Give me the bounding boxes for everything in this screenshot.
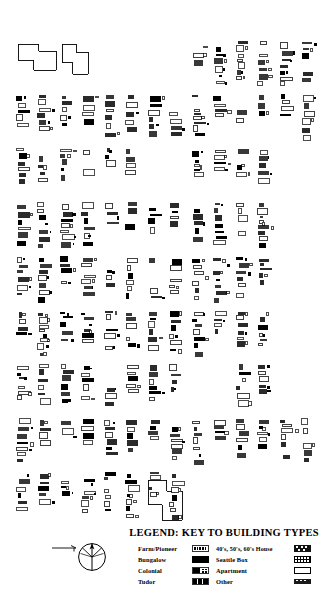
legend-item-40s50s60s-house-label: 40's, 50's, 60's House — [216, 545, 292, 553]
map-page: LEGEND: KEY TO BUILDING TYPES Farm/Pione… — [0, 0, 328, 605]
legend-swatch-apartment — [294, 567, 311, 574]
legend-item-other-label: Other — [216, 578, 292, 586]
north-arrow-compass-icon — [74, 540, 110, 578]
legend-swatch-tudor — [192, 578, 209, 585]
legend-item-colonial-label: Colonial — [138, 567, 190, 575]
legend-item-farm-pioneer-label: Farm/Pioneer — [138, 545, 190, 553]
legend-swatch-seattle-box — [294, 556, 311, 563]
legend-swatch-40s50s60s-house — [294, 545, 311, 552]
map-orientation-group — [52, 535, 114, 593]
legend-item-tudor-label: Tudor — [138, 578, 190, 586]
legend-swatch-bungalow — [192, 556, 209, 563]
legend-item-apartment-label: Apartment — [216, 567, 292, 575]
legend-swatch-other — [294, 578, 311, 585]
legend-swatch-colonial — [192, 567, 209, 574]
map-area[interactable] — [0, 0, 328, 528]
legend-item-seattle-box-label: Seattle Box — [216, 556, 292, 564]
legend-entries: Farm/Pioneer 40's, 50's, 60's House Bung… — [138, 543, 326, 587]
legend: LEGEND: KEY TO BUILDING TYPES Farm/Pione… — [124, 527, 326, 599]
legend-item-bungalow-label: Bungalow — [138, 556, 190, 564]
legend-swatch-farm-pioneer — [192, 545, 209, 552]
building-footprint-map — [0, 0, 328, 528]
legend-title: LEGEND: KEY TO BUILDING TYPES — [124, 527, 324, 538]
map-bottom-panel: LEGEND: KEY TO BUILDING TYPES Farm/Pione… — [0, 525, 328, 605]
